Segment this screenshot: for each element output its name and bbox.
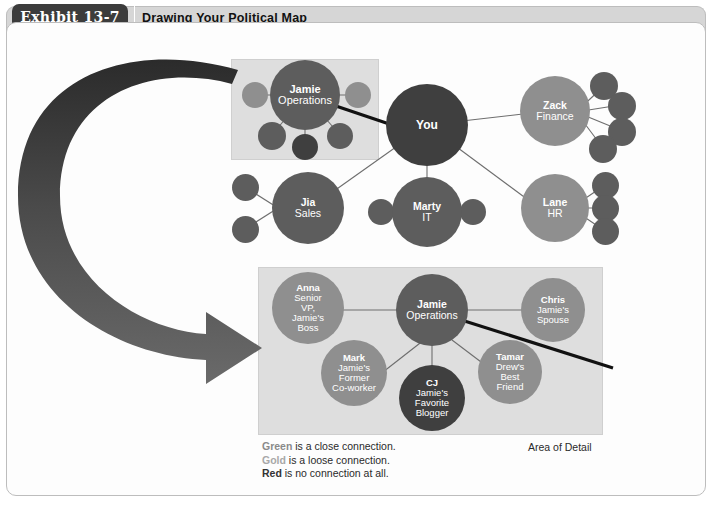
node-mark-detail[interactable]: Mark Jamie's Former Co-worker xyxy=(321,340,387,406)
node-role-line: Blogger xyxy=(416,408,449,418)
legend-keyword-red: Red xyxy=(262,467,282,479)
node-marty[interactable]: Marty IT xyxy=(392,177,462,247)
satellite-dot xyxy=(327,123,353,149)
node-zack[interactable]: Zack Finance xyxy=(520,76,590,146)
legend-text: is a close connection. xyxy=(292,440,395,452)
legend-text: is a loose connection. xyxy=(286,454,390,466)
node-tamar-detail[interactable]: Tamar Drew's Best Friend xyxy=(478,340,542,404)
legend-keyword-green: Green xyxy=(262,440,292,452)
satellite-dot xyxy=(608,92,636,120)
node-chris-detail[interactable]: Chris Jamie's Spouse xyxy=(521,278,585,342)
legend-text: is no connection at all. xyxy=(282,467,389,479)
node-role: Sales xyxy=(295,208,321,219)
legend-line-gold: Gold is a loose connection. xyxy=(262,454,396,468)
node-role-line: Spouse xyxy=(537,315,569,325)
node-you[interactable]: You xyxy=(386,84,468,166)
legend-keyword-gold: Gold xyxy=(262,454,286,466)
node-role-line: Friend xyxy=(497,382,524,392)
satellite-dot xyxy=(345,82,371,108)
satellite-dot xyxy=(460,199,486,225)
node-role-line: Boss xyxy=(297,323,318,333)
area-of-detail-label: Area of Detail xyxy=(528,441,592,453)
node-name: You xyxy=(416,119,438,131)
satellite-dot xyxy=(258,122,286,150)
node-lane[interactable]: Lane HR xyxy=(521,174,589,242)
legend: Green is a close connection. Gold is a l… xyxy=(262,440,396,481)
satellite-dot xyxy=(242,82,268,108)
satellite-dot xyxy=(592,218,619,245)
legend-line-green: Green is a close connection. xyxy=(262,440,396,454)
node-jamie-overview[interactable]: Jamie Operations xyxy=(270,60,340,130)
node-role: Operations xyxy=(278,95,332,106)
node-role: Finance xyxy=(536,111,573,122)
satellite-dot xyxy=(292,134,318,160)
satellite-dot xyxy=(232,216,259,243)
node-role: IT xyxy=(422,212,431,223)
node-jia[interactable]: Jia Sales xyxy=(272,172,344,244)
legend-line-red: Red is no connection at all. xyxy=(262,467,396,481)
satellite-dot xyxy=(368,199,394,225)
node-role-line: Co-worker xyxy=(332,383,376,393)
node-jamie-detail[interactable]: Jamie Operations xyxy=(396,274,468,346)
satellite-dot xyxy=(589,135,617,163)
node-role: Operations xyxy=(406,310,457,321)
node-role: HR xyxy=(547,208,562,219)
node-cj-detail[interactable]: CJ Jamie's Favorite Blogger xyxy=(399,365,465,431)
node-anna-detail[interactable]: Anna Senior VP, Jamie's Boss xyxy=(272,272,344,344)
exhibit-page: Exhibit 13-7 Drawing Your Political Map xyxy=(0,0,716,506)
satellite-dot xyxy=(232,174,259,201)
